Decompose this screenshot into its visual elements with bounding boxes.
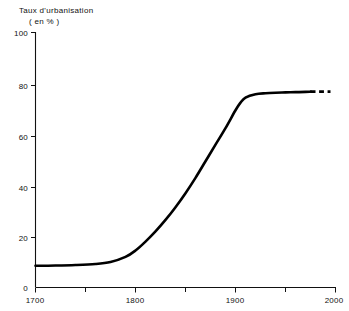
urbanisation-chart: Taux d'urbanisation ( en % ) 100 80 60 4… [0, 0, 349, 311]
y-tick-label-80: 80 [19, 82, 29, 91]
chart-title: Taux d'urbanisation [19, 6, 93, 15]
x-tick-label-2000: 2000 [325, 296, 344, 305]
y-axis-ticks: 100 80 60 40 20 0 [14, 29, 35, 293]
x-tick-label-1900: 1900 [226, 296, 245, 305]
y-tick-label-20: 20 [19, 234, 29, 243]
y-tick-label-100: 100 [14, 29, 28, 38]
y-tick-label-60: 60 [19, 133, 29, 142]
x-tick-label-1800: 1800 [126, 296, 145, 305]
urbanisation-curve [36, 92, 311, 266]
y-tick-label-0: 0 [23, 284, 28, 293]
chart-canvas: Taux d'urbanisation ( en % ) 100 80 60 4… [0, 0, 349, 311]
x-axis-ticks: 1700 1800 1900 2000 [26, 288, 344, 306]
chart-subtitle: ( en % ) [29, 17, 59, 26]
y-tick-label-40: 40 [19, 184, 29, 193]
x-tick-label-1700: 1700 [26, 296, 45, 305]
